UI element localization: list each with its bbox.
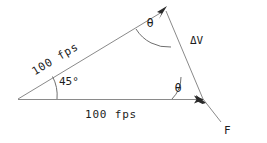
force-arrowhead xyxy=(196,95,206,104)
delta-v-label: ΔV xyxy=(190,34,204,47)
incidence-angle-label: 45° xyxy=(59,75,79,88)
vector-triangle-diagram: 100 fps 45° θ θ ΔV 100 fps F xyxy=(0,0,267,143)
force-label: F xyxy=(224,124,231,137)
diagram-canvas: 100 fps 45° θ θ ΔV 100 fps F xyxy=(0,0,267,143)
theta-bottom-label: θ xyxy=(174,81,181,95)
angle-theta-top-arc xyxy=(136,29,171,47)
outgoing-speed-label: 100 fps xyxy=(85,108,137,121)
delta-v-line xyxy=(166,11,203,99)
incoming-velocity-line xyxy=(18,12,162,99)
force-line xyxy=(203,99,221,122)
theta-top-label: θ xyxy=(146,16,153,30)
angle-45-arc xyxy=(53,77,58,100)
incoming-velocity-arrowhead xyxy=(157,6,167,19)
incoming-speed-label: 100 fps xyxy=(30,40,81,78)
